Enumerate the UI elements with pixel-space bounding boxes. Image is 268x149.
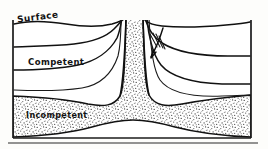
incompetent-label: Incompetent [26,111,88,120]
competent-label: Competent [28,57,84,67]
section-body [13,18,251,139]
geologic-cross-section-figure: Surface Competent Incompetent [0,0,268,149]
cross-section-drawing: Surface Competent Incompetent [0,0,268,149]
